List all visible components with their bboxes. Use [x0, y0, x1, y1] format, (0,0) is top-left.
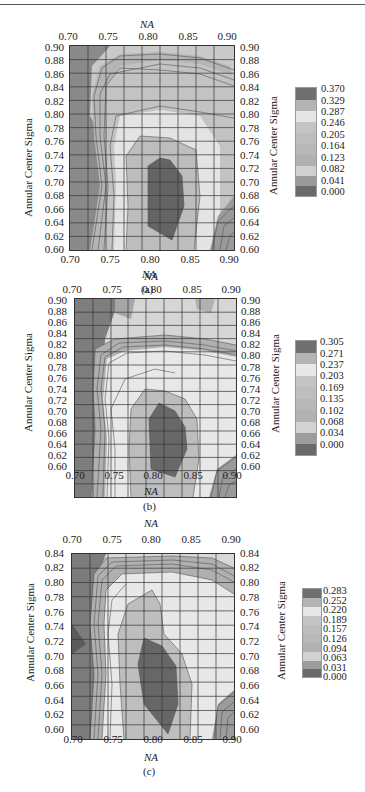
colorbar-label: 0.123 [321, 153, 345, 164]
colorbar-label: 0.287 [321, 107, 345, 118]
y-tick: 0.70 [240, 177, 270, 188]
y-tick: 0.66 [34, 680, 64, 691]
top-x-tick: 0.80 [133, 31, 163, 42]
contour-plot-a [69, 45, 235, 251]
y-tick: 0.78 [240, 123, 270, 134]
y-tick: 0.64 [240, 217, 270, 228]
colorbar-label: 0.237 [320, 360, 344, 371]
top-x-axis-title: NA [140, 18, 154, 30]
contour-fill-c [72, 554, 234, 739]
y-axis-title-right: Annular Center Sigma [269, 334, 281, 433]
top-x-tick: 0.90 [212, 31, 242, 42]
bottom-x-tick: 0.85 [175, 254, 205, 265]
y-tick: 0.62 [34, 231, 64, 242]
bottom-x-tick: 0.90 [214, 254, 244, 265]
y-tick: 0.70 [34, 651, 64, 662]
y-tick: 0.80 [241, 350, 271, 361]
y-tick: 0.80 [34, 577, 64, 588]
y-axis-title-right: Annular Center Sigma [267, 96, 279, 195]
bottom-x-tick: 0.75 [98, 734, 128, 745]
y-tick: 0.72 [34, 163, 64, 174]
bottom-x-tick: 0.85 [178, 734, 208, 745]
y-tick: 0.70 [34, 177, 64, 188]
colorbar-label: 0.169 [320, 383, 344, 394]
y-tick: 0.72 [240, 636, 270, 647]
y-axis-title-right: Annular Center Sigma [275, 581, 287, 680]
y-tick: 0.78 [34, 592, 64, 603]
bottom-x-tick: 0.85 [178, 470, 208, 481]
bottom-x-tick: 0.70 [55, 254, 85, 265]
y-tick: 0.66 [34, 204, 64, 215]
colorbar-label: 0.000 [321, 187, 345, 198]
y-tick: 0.70 [240, 651, 270, 662]
y-tick: 0.76 [240, 607, 270, 618]
colorbar-label: 0.041 [321, 176, 345, 187]
top-x-tick: 0.75 [93, 31, 123, 42]
y-tick: 0.82 [34, 96, 64, 107]
y-tick: 0.86 [34, 69, 64, 80]
y-tick: 0.82 [240, 96, 270, 107]
top-x-tick: 0.85 [177, 284, 207, 295]
y-tick: 0.86 [240, 69, 270, 80]
top-x-tick: 0.80 [137, 284, 167, 295]
y-tick: 0.74 [240, 150, 270, 161]
colorbar-b [295, 340, 317, 456]
figure-caption-c: (c) [143, 765, 155, 777]
colorbar-label: 0.246 [321, 118, 345, 129]
colorbar-label: 0.271 [320, 349, 344, 360]
y-tick: 0.68 [240, 665, 270, 676]
colorbar-c [302, 588, 322, 678]
y-tick: 0.78 [240, 592, 270, 603]
y-tick: 0.88 [34, 55, 64, 66]
y-tick: 0.84 [34, 548, 64, 559]
y-tick: 0.84 [240, 82, 270, 93]
y-tick: 0.62 [34, 709, 64, 720]
top-x-tick: 0.85 [176, 534, 206, 545]
y-tick: 0.64 [34, 217, 64, 228]
y-tick: 0.72 [34, 636, 64, 647]
y-tick: 0.90 [240, 42, 270, 53]
y-tick: 0.84 [34, 82, 64, 93]
colorbar-label: 0.068 [320, 417, 344, 428]
top-x-tick: 0.75 [97, 284, 127, 295]
bottom-x-tick: 0.75 [95, 254, 125, 265]
colorbar-label: 0.034 [320, 428, 344, 439]
top-x-axis-title: NA [144, 517, 158, 529]
y-tick: 0.80 [37, 350, 67, 361]
colorbar-label: 0.102 [320, 406, 344, 417]
y-tick: 0.90 [34, 42, 64, 53]
y-axis-title-left: Annular Center Sigma [24, 583, 36, 682]
figure-caption-b: (b) [143, 500, 156, 512]
y-tick: 0.74 [34, 150, 64, 161]
y-tick: 0.88 [240, 55, 270, 66]
y-tick: 0.60 [240, 244, 270, 255]
y-tick: 0.72 [240, 163, 270, 174]
top-x-tick: 0.85 [173, 31, 203, 42]
colorbar-label: 0.203 [320, 371, 344, 382]
bottom-x-tick: 0.75 [99, 470, 129, 481]
y-tick: 0.80 [240, 577, 270, 588]
colorbar-label: 0.135 [320, 394, 344, 405]
bottom-x-axis-title: NA [144, 485, 158, 497]
y-tick: 0.66 [240, 680, 270, 691]
colorbar-label: 0.000 [323, 672, 347, 683]
y-tick: 0.84 [240, 548, 270, 559]
colorbar-label: 0.000 [320, 440, 344, 451]
y-tick: 0.68 [34, 190, 64, 201]
colorbar-label: 0.082 [321, 164, 345, 175]
y-tick: 0.80 [34, 109, 64, 120]
y-tick: 0.64 [34, 695, 64, 706]
y-tick: 0.82 [34, 562, 64, 573]
bottom-x-tick: 0.80 [138, 470, 168, 481]
y-tick: 0.74 [34, 621, 64, 632]
y-tick: 0.62 [240, 709, 270, 720]
colorbar-a [295, 87, 317, 197]
colorbar-label: 0.205 [321, 130, 345, 141]
y-tick: 0.62 [240, 231, 270, 242]
top-x-tick: 0.90 [216, 534, 246, 545]
y-tick: 0.78 [34, 123, 64, 134]
top-x-tick: 0.70 [57, 534, 87, 545]
bottom-x-tick: 0.90 [217, 734, 247, 745]
contour-plot-c [71, 553, 235, 740]
y-tick: 0.68 [240, 190, 270, 201]
